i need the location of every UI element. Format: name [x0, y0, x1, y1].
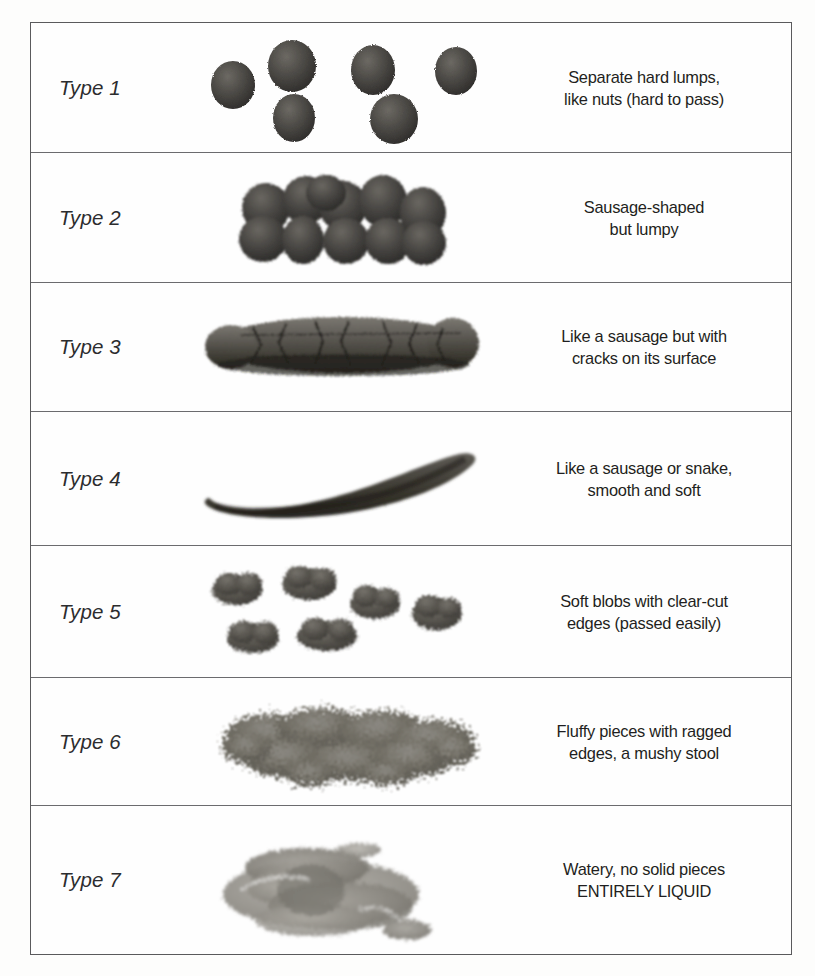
bristol-stool-chart-table: Type 1: [30, 22, 792, 955]
type-description: Fluffy pieces with ragged edges, a mushy…: [515, 720, 773, 764]
type-description: Like a sausage but with cracks on its su…: [515, 325, 773, 369]
type-description: Watery, no solid pieces ENTIRELY LIQUID: [515, 858, 773, 902]
type-description: Separate hard lumps, like nuts (hard to …: [515, 66, 773, 110]
table-row: Type 7: [31, 806, 791, 954]
table-row: Type 4: [31, 412, 791, 546]
type-label: Type 2: [59, 206, 121, 230]
watery-liquid-illustration: [191, 806, 521, 954]
soft-blobs-illustration: [191, 546, 521, 677]
page-background: Type 1: [0, 0, 815, 976]
type-label: Type 3: [59, 335, 121, 359]
cracked-sausage-illustration: [191, 283, 521, 411]
table-row: Type 1: [31, 23, 791, 153]
type-label: Type 1: [59, 76, 121, 100]
type-label: Type 6: [59, 730, 121, 754]
table-row: Type 6: [31, 678, 791, 806]
table-row: Type 2: [31, 153, 791, 283]
table-row: Type 3: [31, 283, 791, 412]
type-label: Type 7: [59, 868, 121, 892]
fluffy-mushy-illustration: [191, 678, 521, 805]
type-description: Sausage-shaped but lumpy: [515, 196, 773, 240]
type-description: Like a sausage or snake, smooth and soft: [515, 457, 773, 501]
separate-hard-lumps-illustration: [191, 23, 521, 152]
smooth-snake-illustration: [191, 412, 521, 545]
type-description: Soft blobs with clear-cut edges (passed …: [515, 590, 773, 634]
table-row: Type 5: [31, 546, 791, 678]
type-label: Type 4: [59, 467, 121, 491]
type-label: Type 5: [59, 600, 121, 624]
sausage-shaped-lumpy-illustration: [191, 153, 521, 282]
